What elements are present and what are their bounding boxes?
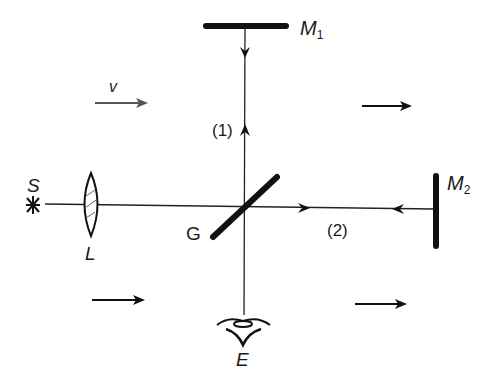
velocity-label: v [109,78,118,95]
lens-label: L [85,243,96,264]
light-source-icon [26,196,40,214]
velocity-arrow-bottomright [355,299,407,309]
mirror-m2-label: M2 [447,172,471,197]
interferometer-diagram: M1 M2 G S L E (1) (2) v [0,0,498,384]
velocity-arrow-bottomleft [92,295,145,305]
mirror-m1-label: M1 [300,17,324,42]
eye-label: E [236,349,249,370]
lens-icon [85,173,98,236]
eye-icon [217,319,270,345]
vertical-beam [244,26,245,315]
path2-right-arrow-icon [298,203,310,213]
path2-label: (2) [327,221,348,240]
path1-label: (1) [212,121,233,140]
velocity-arrow-topleft [95,98,148,108]
source-label: S [27,175,40,196]
beam-splitter-label: G [186,223,201,244]
velocity-arrow-topright [362,101,412,111]
